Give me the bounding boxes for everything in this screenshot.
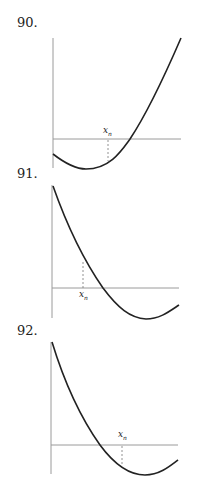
figure-91: xn	[52, 185, 179, 319]
function-curve	[53, 186, 179, 319]
function-curve	[53, 38, 181, 169]
figure-92: xn	[51, 342, 178, 475]
xn-label: xn	[79, 289, 88, 301]
figure-90: xn	[53, 38, 181, 169]
xn-label: xn	[118, 429, 127, 441]
figures-canvas: xn xn xn	[0, 0, 217, 504]
function-curve	[52, 342, 178, 475]
xn-label: xn	[103, 125, 112, 137]
